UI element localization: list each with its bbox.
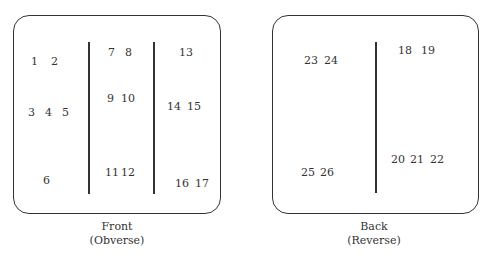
region-label: 15 — [187, 101, 201, 113]
region-label: 25 — [301, 167, 315, 179]
front-divider-2 — [153, 42, 155, 194]
region-label: 4 — [45, 107, 52, 119]
front-caption-subtitle: (Obverse) — [57, 234, 177, 248]
region-label: 26 — [320, 167, 334, 179]
region-label: 1 — [31, 56, 38, 68]
region-label: 2 — [51, 56, 58, 68]
region-label: 8 — [125, 47, 132, 59]
front-divider-1 — [88, 42, 90, 194]
region-label: 19 — [421, 45, 435, 57]
back-divider — [375, 42, 377, 193]
region-label: 14 — [167, 101, 181, 113]
region-label: 16 — [175, 178, 189, 190]
region-label: 13 — [179, 47, 193, 59]
region-label: 10 — [121, 93, 135, 105]
region-label: 9 — [107, 93, 114, 105]
region-label: 23 — [304, 55, 318, 67]
region-label: 18 — [398, 45, 412, 57]
back-caption-title: Back — [314, 220, 434, 234]
back-caption-subtitle: (Reverse) — [314, 234, 434, 248]
region-label: 3 — [28, 107, 35, 119]
region-label: 17 — [195, 178, 209, 190]
region-label: 11 — [105, 167, 119, 179]
region-label: 12 — [121, 167, 135, 179]
front-caption-title: Front — [57, 220, 177, 234]
region-label: 5 — [62, 107, 69, 119]
back-caption: Back (Reverse) — [314, 220, 434, 248]
region-label: 21 — [410, 154, 424, 166]
region-label: 24 — [324, 55, 338, 67]
region-label: 22 — [430, 154, 444, 166]
region-label: 6 — [43, 175, 50, 187]
region-label: 20 — [391, 154, 405, 166]
region-label: 7 — [108, 47, 115, 59]
front-caption: Front (Obverse) — [57, 220, 177, 248]
